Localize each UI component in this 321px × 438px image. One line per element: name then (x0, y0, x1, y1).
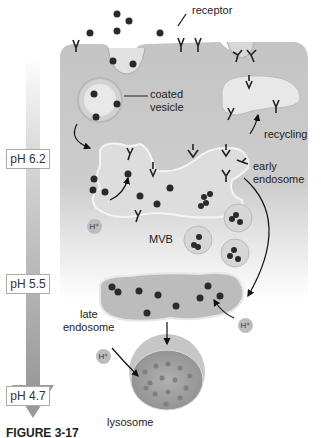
ph-gradient-arrow (12, 55, 54, 418)
coated-vesicle-label-line1: coated (150, 88, 183, 100)
proton-lysosome: H⁺ (96, 349, 111, 364)
ph-label-early: pH 6.2 (6, 149, 50, 169)
lysosome-label: lysosome (107, 416, 153, 428)
proton-early: H⁺ (87, 219, 102, 234)
late-endosome-label-line1: late (80, 308, 98, 320)
late-endosome-label-line2: endosome (63, 321, 114, 333)
coated-vesicle-label-line2: vesicle (150, 101, 184, 113)
ph-label-late: pH 5.5 (6, 274, 50, 294)
recycling-label: recycling (264, 128, 307, 140)
early-endosome-label-line2: endosome (253, 173, 304, 185)
receptor-label: receptor (192, 4, 232, 16)
early-endosome-label-line1: early (253, 160, 277, 172)
mvb-label: MVB (149, 233, 173, 245)
endocytosis-diagram (0, 0, 321, 438)
proton-late: H⁺ (238, 318, 253, 333)
ph-label-lysosome: pH 4.7 (6, 386, 50, 406)
figure-caption: FIGURE 3-17 (6, 426, 79, 438)
